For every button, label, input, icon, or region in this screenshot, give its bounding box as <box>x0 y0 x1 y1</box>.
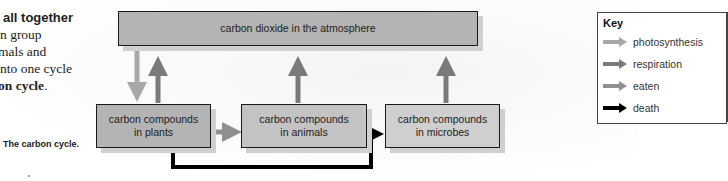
key-label-eaten: eaten <box>633 80 659 92</box>
key-label-respiration: respiration <box>633 58 682 70</box>
key-item-photosynthesis: photosynthesis <box>603 36 703 48</box>
photosynthesis-arrow-icon <box>603 37 627 47</box>
key-item-death: death <box>603 102 659 114</box>
atmosphere-box: carbon dioxide in the atmosphere <box>118 11 478 46</box>
plants-label-line2: in plants <box>109 126 198 139</box>
microbes-label-line1: carbon compounds <box>398 113 487 126</box>
atmosphere-label: carbon dioxide in the atmosphere <box>220 22 375 35</box>
plants-label-line1: carbon compounds <box>109 113 198 126</box>
microbes-box: carbon compoundsin microbes <box>385 104 500 148</box>
eaten-arrow-icon <box>603 81 627 91</box>
plants-box: carbon compoundsin plants <box>96 104 211 148</box>
animals-label-line2: in animals <box>259 126 348 139</box>
animals-box: carbon compoundsin animals <box>241 104 367 148</box>
death-arrow-icon <box>603 103 627 113</box>
microbes-label-line2: in microbes <box>398 126 487 139</box>
key-item-respiration: respiration <box>603 58 682 70</box>
animals-label-line1: carbon compounds <box>259 113 348 126</box>
key-label-death: death <box>633 102 659 114</box>
key-title: Key <box>603 17 623 29</box>
respiration-arrow-icon <box>603 59 627 69</box>
key-label-photosynthesis: photosynthesis <box>633 36 703 48</box>
key-item-eaten: eaten <box>603 80 659 92</box>
